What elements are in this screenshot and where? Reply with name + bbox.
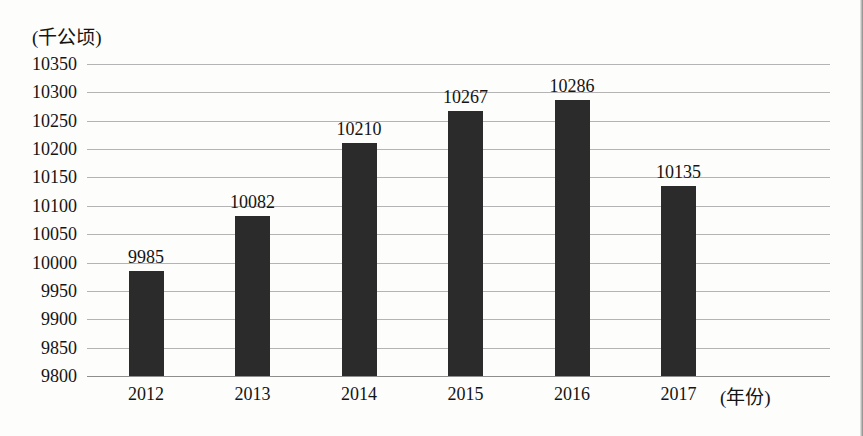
x-axis-tick-label: 2015 [448, 385, 484, 403]
bar-value-label: 10210 [337, 120, 382, 138]
x-axis-line [87, 376, 830, 377]
x-axis-title: (年份) [720, 382, 771, 409]
bar [448, 111, 483, 376]
y-axis-tick-label: 9900 [7, 310, 77, 328]
y-axis-tick-label: 10000 [7, 254, 77, 272]
gridline [87, 64, 830, 65]
y-axis-tick-label: 9850 [7, 339, 77, 357]
y-axis-tick-label: 9950 [7, 282, 77, 300]
bar [661, 186, 696, 376]
bar [555, 100, 590, 376]
chart-figure: (千公顷) 1035010300102501020010150101001005… [0, 0, 863, 436]
y-axis-tick-label: 10300 [7, 83, 77, 101]
bar-value-label: 10135 [656, 163, 701, 181]
x-axis-tick-label: 2016 [554, 385, 590, 403]
y-axis-tick-label: 10050 [7, 225, 77, 243]
y-axis-unit-label: (千公顷) [32, 22, 102, 49]
y-axis-tick-label: 10150 [7, 168, 77, 186]
bar-value-label: 10082 [230, 193, 275, 211]
y-axis-tick-label: 10250 [7, 112, 77, 130]
plot-area: 1035010300102501020010150101001005010000… [87, 64, 830, 376]
bar-value-label: 10267 [443, 88, 488, 106]
x-axis-tick-label: 2017 [661, 385, 697, 403]
x-axis-tick-label: 2014 [341, 385, 377, 403]
y-axis-tick-label: 9800 [7, 367, 77, 385]
bar-value-label: 9985 [128, 248, 164, 266]
y-axis-tick-label: 10200 [7, 140, 77, 158]
y-axis-tick-label: 10350 [7, 55, 77, 73]
bar [129, 271, 164, 376]
x-axis-tick-label: 2012 [128, 385, 164, 403]
x-axis-tick-label: 2013 [235, 385, 271, 403]
bar-value-label: 10286 [550, 77, 595, 95]
bar [235, 216, 270, 376]
bar [342, 143, 377, 376]
y-axis-tick-label: 10100 [7, 197, 77, 215]
